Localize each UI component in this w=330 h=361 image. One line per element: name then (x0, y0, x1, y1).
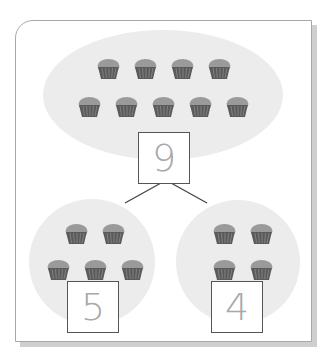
muffin-icon (120, 259, 145, 281)
connector-line-left (125, 183, 161, 203)
whole-number: 9 (152, 136, 176, 180)
muffin-icon (151, 96, 176, 118)
muffin-icon (83, 259, 108, 281)
muffin-icon (249, 259, 274, 281)
part-right-number: 4 (225, 285, 249, 329)
part-right-number-box: 4 (211, 281, 263, 333)
muffin-icon (249, 223, 274, 245)
part-left-number-box: 5 (67, 281, 119, 333)
muffin-icon (77, 96, 102, 118)
muffin-icon (101, 223, 126, 245)
muffin-icon (212, 223, 237, 245)
muffin-icon (212, 259, 237, 281)
connector-line-right (171, 183, 207, 203)
muffin-icon (64, 223, 89, 245)
muffin-icon (188, 96, 213, 118)
part-left-number: 5 (81, 285, 105, 329)
muffin-icon (207, 58, 232, 80)
muffin-icon (225, 96, 250, 118)
muffin-icon (133, 58, 158, 80)
muffin-icon (96, 58, 121, 80)
muffin-icon (114, 96, 139, 118)
muffin-icon (46, 259, 71, 281)
whole-number-box: 9 (138, 132, 190, 184)
muffin-icon (170, 58, 195, 80)
